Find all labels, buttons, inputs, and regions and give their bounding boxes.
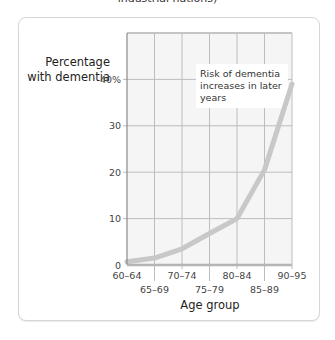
- x-tick-label: 80–84: [223, 270, 252, 281]
- y-tick-label: 20: [109, 167, 121, 178]
- x-axis-label: Age group: [180, 298, 239, 312]
- x-tick-label: 75–79: [195, 284, 224, 295]
- x-tick-label: 90–95: [278, 270, 307, 281]
- y-axis-label-line2: with dementia: [27, 70, 110, 84]
- y-tick-label: 0: [115, 260, 121, 271]
- y-tick-label: 10: [109, 213, 121, 224]
- x-tick-label: 70–74: [168, 270, 197, 281]
- annotation-text-line: years: [200, 92, 226, 103]
- annotation-text-line: Risk of dementia: [200, 68, 280, 79]
- y-tick-label: 40%: [100, 74, 121, 85]
- x-tick-label: 60–64: [113, 270, 142, 281]
- y-axis-label-line1: Percentage: [45, 55, 110, 69]
- y-tick-label: 30: [109, 120, 121, 131]
- line-chart: Percentage with dementia Age group Risk …: [0, 0, 335, 340]
- x-tick-label: 65–69: [140, 284, 169, 295]
- x-tick-label: 85–89: [250, 284, 279, 295]
- annotation-text-line: increases in later: [200, 80, 282, 91]
